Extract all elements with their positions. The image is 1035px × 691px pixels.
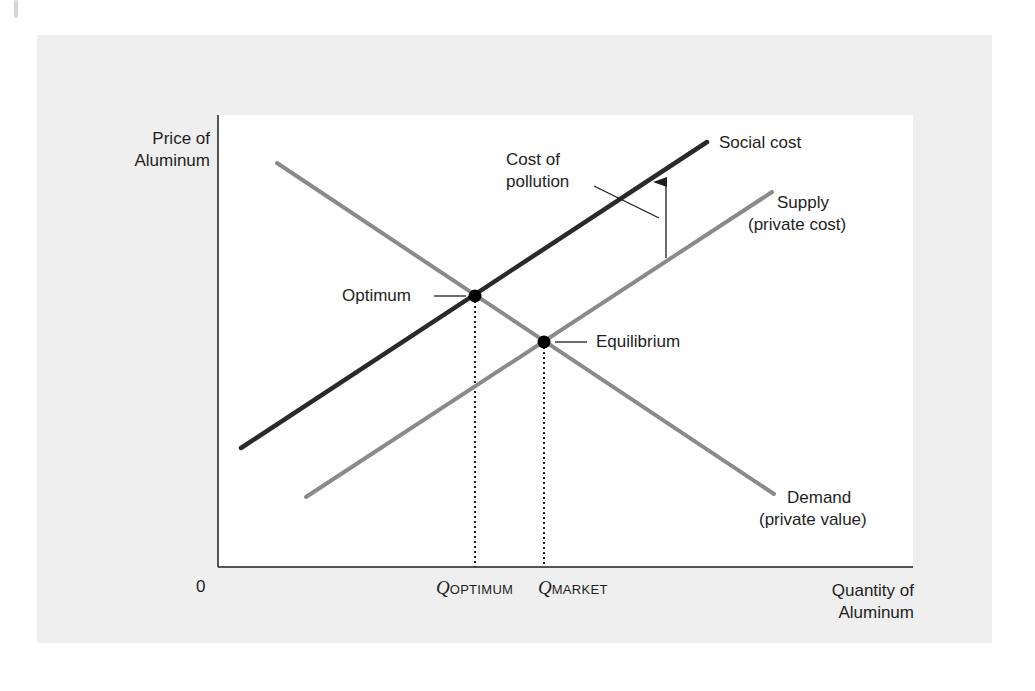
cost-of-pollution-label: Cost of pollution (506, 149, 569, 193)
x-axis-label-line2: Aluminum (832, 602, 914, 624)
cost-of-pollution-leader (594, 186, 659, 218)
q-market-subscript: MARKET (552, 582, 608, 597)
cost-of-pollution-line1: Cost of (506, 149, 569, 171)
figure-canvas: Price of Aluminum 0 Quantity of Aluminum… (0, 0, 1035, 691)
equilibrium-label: Equilibrium (596, 331, 680, 353)
demand-label: Demand (private value) (759, 487, 867, 531)
q-optimum-label: QOPTIMUM (436, 577, 513, 601)
demand-curve (277, 163, 774, 494)
q-optimum-symbol: Q (436, 577, 450, 598)
origin-label: 0 (196, 576, 205, 598)
y-axis-label-line2: Aluminum (134, 150, 210, 172)
demand-label-line2: (private value) (759, 509, 867, 531)
social-cost-label: Social cost (719, 132, 801, 154)
q-market-label: QMARKET (538, 577, 608, 601)
cost-of-pollution-line2: pollution (506, 171, 569, 193)
optimum-point (469, 290, 482, 303)
supply-label: Supply (private cost) (748, 192, 846, 236)
y-axis-label: Price of Aluminum (134, 128, 210, 172)
equilibrium-point (538, 336, 551, 349)
demand-label-line1: Demand (759, 487, 867, 509)
y-axis-label-line1: Price of (134, 128, 210, 150)
x-axis-label: Quantity of Aluminum (832, 580, 914, 624)
q-market-symbol: Q (538, 577, 552, 598)
x-axis-label-line1: Quantity of (832, 580, 914, 602)
optimum-label: Optimum (342, 285, 411, 307)
supply-label-line1: Supply (748, 192, 846, 214)
supply-label-line2: (private cost) (748, 214, 846, 236)
q-optimum-subscript: OPTIMUM (450, 582, 513, 597)
